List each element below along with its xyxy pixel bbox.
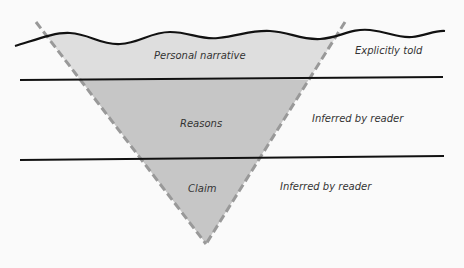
label-inferred-by-reader-2: Inferred by reader: [280, 181, 371, 192]
label-personal-narrative: Personal narrative: [154, 50, 246, 61]
iceberg-diagram: [0, 0, 464, 268]
label-claim: Claim: [188, 183, 216, 194]
label-explicitly-told: Explicitly told: [355, 45, 422, 56]
label-inferred-by-reader-1: Inferred by reader: [312, 113, 403, 124]
label-reasons: Reasons: [180, 118, 222, 129]
